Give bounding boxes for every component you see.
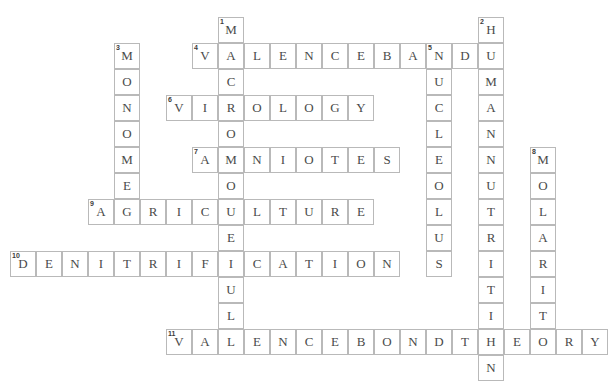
crossword-cell[interactable]: I: [478, 303, 504, 329]
crossword-cell[interactable]: D: [452, 43, 478, 69]
crossword-cell[interactable]: E: [348, 147, 374, 173]
crossword-cell[interactable]: I: [530, 277, 556, 303]
crossword-cell[interactable]: R: [478, 225, 504, 251]
crossword-cell[interactable]: U: [478, 173, 504, 199]
crossword-cell[interactable]: A: [400, 43, 426, 69]
crossword-cell[interactable]: R: [556, 329, 582, 355]
crossword-cell[interactable]: L: [218, 303, 244, 329]
crossword-cell[interactable]: C: [426, 95, 452, 121]
crossword-cell[interactable]: 10D: [10, 251, 36, 277]
crossword-cell[interactable]: E: [244, 329, 270, 355]
crossword-cell[interactable]: N: [114, 95, 140, 121]
crossword-cell[interactable]: L: [426, 199, 452, 225]
crossword-cell[interactable]: A: [478, 95, 504, 121]
crossword-cell[interactable]: 6V: [166, 95, 192, 121]
crossword-cell[interactable]: L: [218, 329, 244, 355]
crossword-cell[interactable]: L: [244, 43, 270, 69]
crossword-cell[interactable]: N: [62, 251, 88, 277]
crossword-cell[interactable]: C: [296, 329, 322, 355]
crossword-cell[interactable]: R: [530, 251, 556, 277]
crossword-cell[interactable]: L: [270, 95, 296, 121]
crossword-cell[interactable]: E: [348, 199, 374, 225]
crossword-cell[interactable]: T: [322, 147, 348, 173]
crossword-cell[interactable]: O: [114, 69, 140, 95]
crossword-cell[interactable]: E: [504, 329, 530, 355]
crossword-cell[interactable]: B: [374, 43, 400, 69]
crossword-cell[interactable]: N: [244, 147, 270, 173]
crossword-cell[interactable]: A: [192, 329, 218, 355]
crossword-cell[interactable]: A: [530, 225, 556, 251]
crossword-cell[interactable]: O: [296, 147, 322, 173]
crossword-cell[interactable]: C: [322, 43, 348, 69]
crossword-cell[interactable]: D: [426, 329, 452, 355]
crossword-cell[interactable]: T: [114, 251, 140, 277]
crossword-cell[interactable]: I: [166, 251, 192, 277]
crossword-cell[interactable]: R: [218, 95, 244, 121]
crossword-cell[interactable]: N: [478, 121, 504, 147]
crossword-cell[interactable]: I: [218, 251, 244, 277]
crossword-cell[interactable]: Y: [348, 95, 374, 121]
crossword-cell[interactable]: 1M: [218, 17, 244, 43]
crossword-cell[interactable]: O: [530, 173, 556, 199]
crossword-cell[interactable]: N: [296, 43, 322, 69]
crossword-cell[interactable]: N: [270, 329, 296, 355]
crossword-cell[interactable]: O: [218, 121, 244, 147]
crossword-cell[interactable]: 7A: [192, 147, 218, 173]
crossword-cell[interactable]: M: [478, 69, 504, 95]
crossword-cell[interactable]: R: [140, 199, 166, 225]
crossword-cell[interactable]: H: [478, 329, 504, 355]
crossword-cell[interactable]: N: [478, 147, 504, 173]
crossword-cell[interactable]: O: [348, 251, 374, 277]
crossword-cell[interactable]: T: [452, 329, 478, 355]
crossword-cell[interactable]: T: [270, 199, 296, 225]
crossword-cell[interactable]: U: [426, 225, 452, 251]
crossword-cell[interactable]: O: [530, 329, 556, 355]
crossword-cell[interactable]: 5N: [426, 43, 452, 69]
crossword-cell[interactable]: A: [218, 43, 244, 69]
crossword-cell[interactable]: F: [192, 251, 218, 277]
crossword-cell[interactable]: 11V: [166, 329, 192, 355]
crossword-cell[interactable]: I: [88, 251, 114, 277]
crossword-cell[interactable]: O: [296, 95, 322, 121]
crossword-cell[interactable]: E: [270, 43, 296, 69]
crossword-cell[interactable]: C: [244, 251, 270, 277]
crossword-cell[interactable]: C: [218, 69, 244, 95]
crossword-cell[interactable]: A: [270, 251, 296, 277]
crossword-cell[interactable]: N: [400, 329, 426, 355]
crossword-cell[interactable]: T: [478, 277, 504, 303]
crossword-cell[interactable]: E: [426, 147, 452, 173]
crossword-cell[interactable]: O: [114, 121, 140, 147]
crossword-cell[interactable]: I: [322, 251, 348, 277]
crossword-cell[interactable]: N: [478, 355, 504, 381]
crossword-cell[interactable]: R: [140, 251, 166, 277]
crossword-cell[interactable]: E: [322, 329, 348, 355]
crossword-cell[interactable]: M: [114, 147, 140, 173]
crossword-cell[interactable]: O: [426, 173, 452, 199]
crossword-cell[interactable]: 8M: [530, 147, 556, 173]
crossword-cell[interactable]: M: [218, 147, 244, 173]
crossword-cell[interactable]: G: [114, 199, 140, 225]
crossword-cell[interactable]: U: [426, 69, 452, 95]
crossword-cell[interactable]: T: [530, 303, 556, 329]
crossword-cell[interactable]: L: [426, 121, 452, 147]
crossword-cell[interactable]: O: [218, 173, 244, 199]
crossword-cell[interactable]: R: [322, 199, 348, 225]
crossword-cell[interactable]: E: [36, 251, 62, 277]
crossword-cell[interactable]: C: [192, 199, 218, 225]
crossword-cell[interactable]: U: [218, 199, 244, 225]
crossword-cell[interactable]: S: [426, 251, 452, 277]
crossword-cell[interactable]: E: [218, 225, 244, 251]
crossword-cell[interactable]: T: [478, 199, 504, 225]
crossword-cell[interactable]: I: [192, 95, 218, 121]
crossword-cell[interactable]: Y: [582, 329, 608, 355]
crossword-cell[interactable]: I: [270, 147, 296, 173]
crossword-cell[interactable]: O: [374, 329, 400, 355]
crossword-cell[interactable]: U: [218, 277, 244, 303]
crossword-cell[interactable]: I: [478, 251, 504, 277]
crossword-cell[interactable]: 9A: [88, 199, 114, 225]
crossword-cell[interactable]: 2H: [478, 17, 504, 43]
crossword-cell[interactable]: T: [296, 251, 322, 277]
crossword-cell[interactable]: S: [374, 147, 400, 173]
crossword-cell[interactable]: L: [244, 199, 270, 225]
crossword-cell[interactable]: U: [296, 199, 322, 225]
